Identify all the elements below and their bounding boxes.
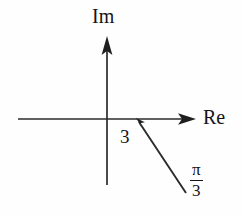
angle-numerator: π	[190, 161, 203, 180]
angle-denominator: 3	[190, 180, 203, 200]
angle-label: π 3	[190, 161, 203, 200]
complex-plane-figure: Im Re 3 π 3	[0, 0, 242, 217]
real-axis-label: Re	[203, 107, 225, 127]
angle-fraction: π 3	[190, 161, 203, 200]
phasor-ray-line	[139, 122, 186, 193]
magnitude-label: 3	[120, 127, 130, 146]
imaginary-axis-label: Im	[92, 6, 114, 26]
